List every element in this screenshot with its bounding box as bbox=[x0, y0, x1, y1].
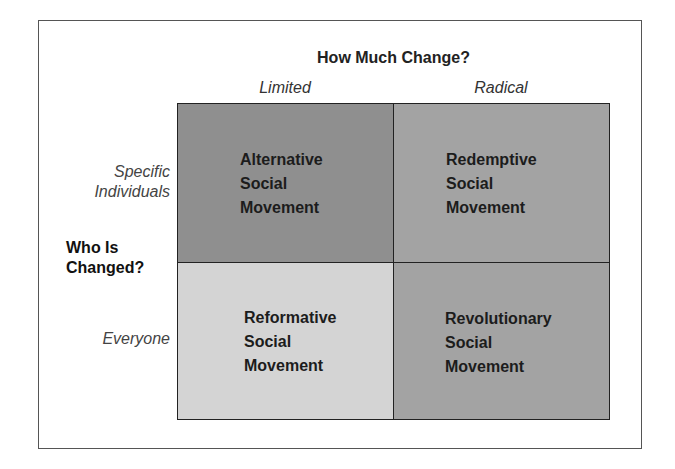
column-label-radical: Radical bbox=[393, 79, 609, 97]
row-label-specific-individuals: Specific Individuals bbox=[94, 162, 170, 202]
cell-label-line: Redemptive bbox=[446, 148, 537, 172]
row-axis-title: Who Is Changed? bbox=[66, 238, 144, 278]
cell-label-line: Social bbox=[445, 331, 552, 355]
cell-label-line: Social bbox=[240, 172, 323, 196]
cell-redemptive: Redemptive Social Movement bbox=[393, 103, 610, 263]
row-axis-title-line: Who Is bbox=[66, 238, 144, 258]
row-label-line: Individuals bbox=[94, 182, 170, 202]
row-label-line: Specific bbox=[94, 162, 170, 182]
cell-label: Redemptive Social Movement bbox=[446, 148, 537, 220]
cell-label-line: Movement bbox=[446, 196, 537, 220]
column-axis-title: How Much Change? bbox=[177, 49, 610, 67]
column-label-limited: Limited bbox=[177, 79, 393, 97]
row-axis-title-line: Changed? bbox=[66, 258, 144, 278]
cell-label: Revolutionary Social Movement bbox=[445, 307, 552, 379]
cell-alternative: Alternative Social Movement bbox=[177, 103, 394, 263]
cell-label-line: Social bbox=[244, 330, 336, 354]
cell-label-line: Movement bbox=[240, 196, 323, 220]
cell-revolutionary: Revolutionary Social Movement bbox=[393, 262, 610, 420]
cell-label-line: Revolutionary bbox=[445, 307, 552, 331]
cell-label-line: Alternative bbox=[240, 148, 323, 172]
cell-label-line: Social bbox=[446, 172, 537, 196]
cell-reformative: Reformative Social Movement bbox=[177, 262, 394, 420]
row-label-everyone: Everyone bbox=[102, 329, 170, 349]
cell-label-line: Movement bbox=[244, 354, 336, 378]
cell-label: Reformative Social Movement bbox=[244, 306, 336, 378]
cell-label: Alternative Social Movement bbox=[240, 148, 323, 220]
cell-label-line: Movement bbox=[445, 355, 552, 379]
cell-label-line: Reformative bbox=[244, 306, 336, 330]
